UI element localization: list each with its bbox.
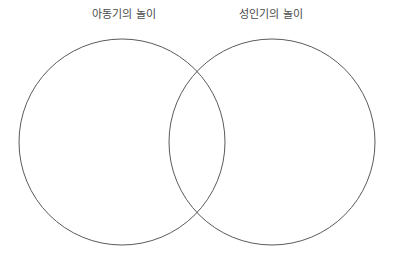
right-circle-label: 성인기의 놀이 (147, 8, 394, 22)
venn-diagram: 아동기의 놀이 성인기의 놀이 (0, 0, 394, 261)
left-circle (19, 39, 225, 245)
venn-diagram-canvas (0, 0, 394, 261)
right-circle (169, 39, 375, 245)
